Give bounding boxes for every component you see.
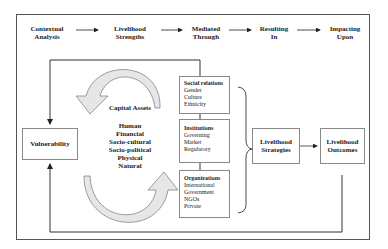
- capital-asset-item: Human: [90, 122, 170, 130]
- header-line1: Livelihood: [100, 25, 160, 33]
- header-line1: Resulting: [244, 25, 304, 33]
- header-line1: Contextual: [17, 25, 77, 33]
- capital-asset-item: Socio-cultural: [90, 138, 170, 146]
- box-item: Government: [184, 189, 225, 196]
- livelihood-strategies-box: Livelihood Strategies: [252, 128, 300, 164]
- box-title: Organizations: [184, 175, 225, 182]
- box-title: Social relations: [184, 80, 225, 87]
- cycle-arrow-bottom-icon: [84, 172, 178, 222]
- box-item: Ethnicity: [184, 101, 225, 108]
- header-livelihood-strengths: Livelihood Strengths: [100, 25, 160, 41]
- organizations-box: Organizations International Government N…: [179, 170, 230, 218]
- box-item: NGOs: [184, 196, 225, 203]
- header-line2: In: [244, 33, 304, 41]
- box-item: Governing: [184, 132, 225, 139]
- header-line2: Strengths: [100, 33, 160, 41]
- box-item: Gender: [184, 87, 225, 94]
- strategies-line1: Livelihood: [260, 138, 292, 146]
- strategies-line2: Strategies: [261, 146, 291, 154]
- capital-asset-item: Natural: [90, 162, 170, 170]
- header-line2: Upon: [315, 33, 375, 41]
- box-item: Private: [184, 203, 225, 210]
- capital-asset-item: Socio-political: [90, 146, 170, 154]
- box-item: Culture: [184, 94, 225, 101]
- header-contextual-analysis: Contextual Analysis: [17, 25, 77, 41]
- box-item: International: [184, 182, 225, 189]
- institutions-box: Institutions Governing Market Regulatory: [179, 119, 230, 163]
- header-line1: Impacting: [315, 25, 375, 33]
- outcomes-line1: Livelihood: [327, 138, 359, 146]
- header-line1: Mediated: [176, 25, 236, 33]
- social-relations-box: Social relations Gender Culture Ethnicit…: [179, 76, 230, 114]
- vulnerability-label: Vulnerability: [30, 140, 69, 148]
- box-title: Institutions: [184, 125, 225, 132]
- header-line2: Analysis: [17, 33, 77, 41]
- box-item: Regulatory: [184, 146, 225, 153]
- box-item: Market: [184, 139, 225, 146]
- capital-assets-title: Capital Assets: [100, 104, 160, 112]
- capital-asset-item: Physical: [90, 154, 170, 162]
- capital-assets-list: Human Financial Socio-cultural Socio-pol…: [90, 122, 170, 170]
- header-line2: Through: [176, 33, 236, 41]
- livelihood-outcomes-box: Livelihood Outcomes: [320, 128, 365, 164]
- header-impacting-upon: Impacting Upon: [315, 25, 375, 41]
- outcomes-line2: Outcomes: [328, 146, 358, 154]
- header-resulting-in: Resulting In: [244, 25, 304, 41]
- header-mediated-through: Mediated Through: [176, 25, 236, 41]
- vulnerability-box: Vulnerability: [22, 128, 78, 160]
- capital-asset-item: Financial: [90, 130, 170, 138]
